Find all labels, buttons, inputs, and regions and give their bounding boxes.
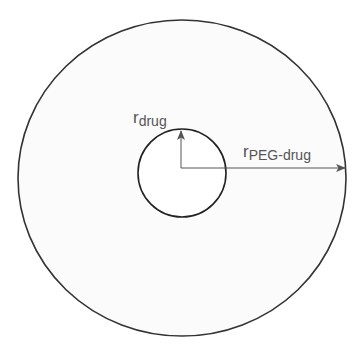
inner-circle-drug bbox=[138, 129, 226, 217]
diagram-canvas: rdrug rPEG-drug bbox=[0, 0, 362, 359]
